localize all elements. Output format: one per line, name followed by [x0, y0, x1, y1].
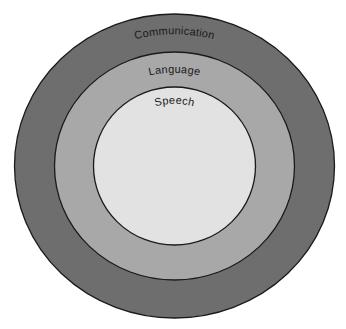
nested-circles-diagram: Communication Language Speech	[0, 0, 346, 329]
speech-ring	[94, 87, 256, 245]
